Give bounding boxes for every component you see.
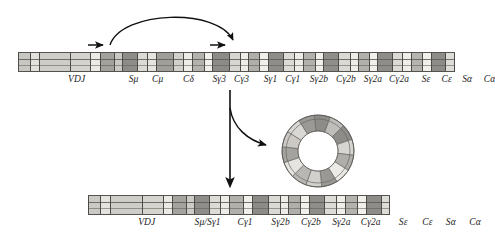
label-vdj: VDJ <box>68 74 85 84</box>
germline-segment <box>378 53 393 71</box>
germline-segment <box>432 53 447 71</box>
switched-segment <box>269 196 280 214</box>
germline-segment <box>304 53 316 71</box>
switched-segment <box>367 196 382 214</box>
germline-segment <box>184 53 193 71</box>
switched-segment <box>195 196 210 214</box>
label-sw-c-epsilon: Cε <box>422 217 432 227</box>
switched-locus-labels: VDJSμ/Sγ1Cγ1Sγ2bCγ2bSγ2aCγ2aSεCεSαCα <box>0 217 473 231</box>
switched-segment <box>281 196 289 214</box>
switched-segment <box>221 196 230 214</box>
switched-segment <box>187 196 195 214</box>
switched-segment <box>210 196 220 214</box>
label-sw-s-gamma2b: Sγ2b <box>271 217 289 227</box>
germline-segment <box>316 53 324 71</box>
germline-segment <box>403 53 412 71</box>
label-sw-s-mu-s-gamma1: Sμ/Sγ1 <box>195 217 221 227</box>
label-c-gamma2b: Cγ2b <box>336 74 356 84</box>
germline-segment <box>205 53 213 71</box>
germline-segment <box>101 53 116 71</box>
switched-segment <box>289 196 301 214</box>
label-s-gamma1: Sγ1 <box>264 74 278 84</box>
switched-segment <box>111 196 144 214</box>
germline-segment <box>295 53 304 71</box>
label-c-alpha: Cα <box>484 74 495 84</box>
switched-segment <box>310 196 326 214</box>
switched-segment <box>358 196 366 214</box>
germline-locus-bar <box>18 52 455 72</box>
germline-segment <box>393 53 403 71</box>
switch-circle-inner-edge <box>298 131 338 171</box>
circle-excision-arrow <box>230 108 266 145</box>
germline-segment <box>230 53 241 71</box>
label-c-gamma2a: Cγ2a <box>389 74 409 84</box>
switched-segment <box>346 196 358 214</box>
germline-segment <box>157 53 173 71</box>
switched-segment <box>230 196 244 214</box>
germline-segment <box>193 53 205 71</box>
label-sw-vdj: VDJ <box>138 217 155 227</box>
switched-segment <box>325 196 336 214</box>
switched-segment <box>101 196 110 214</box>
label-s-alpha: Sα <box>462 74 472 84</box>
switched-segment <box>301 196 309 214</box>
germline-segment <box>339 53 350 71</box>
switched-segment <box>382 196 390 214</box>
label-s-gamma2a: Sγ2a <box>364 74 382 84</box>
switched-segment <box>244 196 252 214</box>
label-c-epsilon: Cε <box>441 74 451 84</box>
excised-switch-circle <box>280 113 356 189</box>
germline-segment <box>71 53 91 71</box>
germline-segment <box>269 53 284 71</box>
switched-segment <box>337 196 346 214</box>
germline-segment <box>174 53 184 71</box>
label-sw-c-gamma1: Cγ1 <box>238 217 253 227</box>
germline-segment <box>423 53 432 71</box>
germline-segment <box>31 53 40 71</box>
germline-segment <box>370 53 378 71</box>
germline-locus-labels: VDJSμCμCδSγ3Cγ3Sγ1Cγ1Sγ2bCγ2bSγ2aCγ2aSεC… <box>0 74 473 88</box>
germline-segment <box>241 53 249 71</box>
germline-segment <box>284 53 295 71</box>
label-s-mu: Sμ <box>129 74 139 84</box>
label-sw-c-alpha: Cα <box>469 217 481 227</box>
label-sw-s-gamma2a: Sγ2a <box>332 217 350 227</box>
germline-segment <box>91 53 101 71</box>
label-c-delta: Cδ <box>183 74 194 84</box>
germline-segment <box>138 53 148 71</box>
germline-segment <box>324 53 339 71</box>
germline-segment <box>115 53 123 71</box>
label-sw-c-gamma2b: Cγ2b <box>301 217 321 227</box>
germline-segment <box>412 53 423 71</box>
germline-segment <box>40 53 72 71</box>
germline-segment <box>260 53 269 71</box>
recombination-arc-arrow <box>110 17 233 45</box>
germline-segment <box>213 53 230 71</box>
label-sw-s-epsilon: Sε <box>399 217 408 227</box>
switched-segment <box>143 196 164 214</box>
germline-segment <box>18 53 31 71</box>
germline-segment <box>123 53 138 71</box>
switched-segment <box>173 196 187 214</box>
switch-circle-svg <box>280 113 356 189</box>
label-sw-c-gamma2a: Cγ2a <box>361 217 381 227</box>
switched-segment <box>253 196 270 214</box>
label-s-gamma3: Sγ3 <box>212 74 226 84</box>
label-sw-s-alpha: Sα <box>446 217 456 227</box>
switched-segment <box>88 196 101 214</box>
switched-segment <box>164 196 173 214</box>
germline-segment <box>446 53 455 71</box>
germline-segment <box>148 53 158 71</box>
label-c-gamma3: Cγ3 <box>234 74 249 84</box>
label-c-gamma1: Cγ1 <box>285 74 300 84</box>
label-s-epsilon: Sε <box>422 74 431 84</box>
switched-locus-bar <box>88 195 390 215</box>
germline-segment <box>351 53 360 71</box>
label-s-gamma2b: Sγ2b <box>310 74 328 84</box>
germline-segment <box>359 53 370 71</box>
label-c-mu: Cμ <box>152 74 163 84</box>
germline-segment <box>249 53 260 71</box>
